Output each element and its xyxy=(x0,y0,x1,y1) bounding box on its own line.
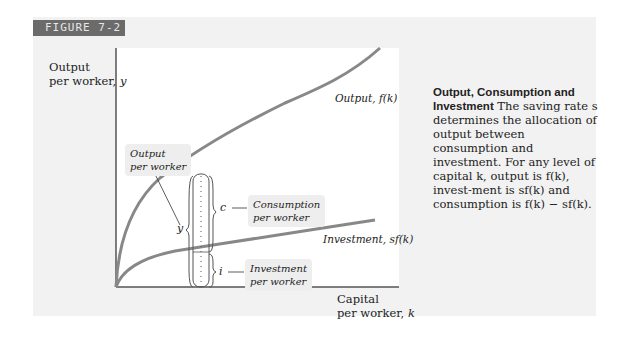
x-var: k xyxy=(408,306,415,320)
figure-caption: Output, Consumption and Investment The s… xyxy=(433,85,603,211)
y-axis-label-line2: per worker, y xyxy=(49,74,126,88)
x-axis-label: Capital per worker, k xyxy=(337,292,415,320)
output-callout: Output per worker xyxy=(125,144,191,176)
investment-curve-label: Investment, sf(k) xyxy=(323,233,413,245)
y-axis-label: Output per worker, y xyxy=(49,60,126,88)
y-var: y xyxy=(120,74,127,88)
c-brace xyxy=(209,176,216,252)
y-symbol: y xyxy=(177,222,183,235)
c-symbol: c xyxy=(220,201,226,214)
output-curve-label: Output, f(k) xyxy=(335,92,397,104)
y-bracket-bar xyxy=(193,174,209,287)
output-leader xyxy=(152,168,180,225)
consumption-callout: Consumption per worker xyxy=(248,195,325,227)
x-axis-label-line2: per worker, k xyxy=(337,306,415,320)
i-symbol: i xyxy=(219,265,223,278)
y-brace xyxy=(186,176,193,287)
investment-callout: Investment per worker xyxy=(245,259,312,291)
caption-body: The saving rate s determines the allocat… xyxy=(433,99,598,211)
x-axis-label-line1: Capital xyxy=(337,292,415,306)
y-axis-label-line1: Output xyxy=(49,60,126,74)
i-brace xyxy=(209,254,216,287)
